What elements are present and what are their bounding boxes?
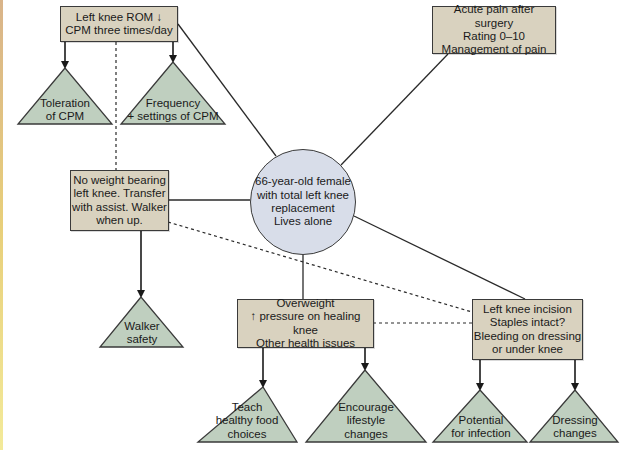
intervention-text: + settings of CPM <box>127 110 218 123</box>
intervention-label-potential: Potential for infection <box>451 414 510 441</box>
intervention-text: Toleration <box>40 97 90 110</box>
problem-text: Other health issues <box>238 337 373 350</box>
intervention-label-encourage: Encourage lifestyle changes <box>338 401 394 441</box>
center-text: with total left knee <box>257 189 349 202</box>
center-text: Lives alone <box>274 215 332 228</box>
center-patient-circle: 66-year-old female with total left knee … <box>250 149 356 255</box>
problem-box-pain: Acute pain after surgery Rating 0–10 Man… <box>432 6 556 54</box>
intervention-text: Walker <box>124 320 159 333</box>
problem-text: or under knee <box>474 343 581 356</box>
center-text: replacement <box>271 202 334 215</box>
problem-text: with assist. Walker <box>72 201 167 214</box>
problem-box-incision: Left knee incision Staples intact? Bleed… <box>472 299 583 360</box>
problem-box-mobility: No weight bearing left knee. Transfer wi… <box>70 170 169 231</box>
problem-text: Acute pain after surgery <box>433 3 555 30</box>
intervention-text: safety <box>124 333 159 346</box>
intervention-label-walker: Walker safety <box>124 320 159 347</box>
intervention-text: changes <box>552 427 597 440</box>
problem-text: Staples intact? <box>474 316 581 329</box>
problem-text: Left knee incision <box>474 303 581 316</box>
intervention-label-teach: Teach healthy food choices <box>216 401 279 441</box>
link-center-incision <box>354 216 525 299</box>
problem-text: Rating 0–10 <box>433 30 555 43</box>
intervention-text: Dressing <box>552 414 597 427</box>
intervention-label-dressing: Dressing changes <box>552 414 597 441</box>
problem-text: ↑ pressure on healing knee <box>238 310 373 337</box>
problem-box-rom: Left knee ROM ↓ CPM three times/day <box>60 6 178 42</box>
problem-text: when up. <box>72 214 167 227</box>
intervention-text: Teach <box>216 401 279 414</box>
problem-text: CPM three times/day <box>65 24 172 37</box>
problem-text: Left knee ROM ↓ <box>65 11 172 24</box>
problem-box-weight: Overweight ↑ pressure on healing knee Ot… <box>237 299 374 348</box>
intervention-text: for infection <box>451 427 510 440</box>
problem-text: left knee. Transfer <box>72 187 167 200</box>
intervention-text: Encourage <box>338 401 394 414</box>
intervention-text: Frequency <box>127 97 218 110</box>
intervention-text: of CPM <box>40 110 90 123</box>
intervention-text: choices <box>216 428 279 441</box>
problem-text: Management of pain <box>433 43 555 56</box>
intervention-text: Potential <box>451 414 510 427</box>
intervention-text: changes <box>338 428 394 441</box>
problem-text: No weight bearing <box>72 174 167 187</box>
intervention-text: lifestyle <box>338 414 394 427</box>
center-text: 66-year-old female <box>255 175 351 188</box>
intervention-label-toleration: Toleration of CPM <box>40 97 90 124</box>
problem-text: Overweight <box>238 297 373 310</box>
intervention-label-frequency: Frequency + settings of CPM <box>127 97 218 124</box>
problem-text: Bleeding on dressing <box>474 330 581 343</box>
link-center-pain <box>341 54 448 165</box>
intervention-text: healthy food <box>216 414 279 427</box>
